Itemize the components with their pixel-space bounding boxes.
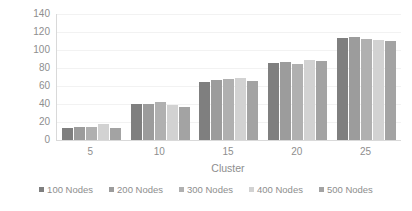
legend-label: 500 Nodes [327,184,373,195]
x-axis-tick-label: 10 [125,145,194,159]
cluster-group [263,14,332,140]
bar[interactable] [211,80,222,140]
bar[interactable] [292,64,303,140]
bar[interactable] [337,38,348,140]
bar[interactable] [143,104,154,140]
legend-label: 200 Nodes [117,184,163,195]
y-axis-tick-label: 40 [20,99,50,109]
bar[interactable] [155,102,166,140]
bar[interactable] [167,105,178,140]
y-axis-tick-label: 100 [20,45,50,55]
legend-item[interactable]: 100 Nodes [39,184,93,195]
bar[interactable] [110,128,121,140]
bar[interactable] [98,124,109,140]
y-axis-tick-labels: 020406080100120140 [20,14,50,140]
y-axis-tick-label: 0 [20,135,50,145]
cluster-group [126,14,195,140]
bar[interactable] [385,41,396,140]
legend-swatch-icon [179,187,184,192]
bar[interactable] [268,63,279,140]
bar-chart: Energy Consumption 020406080100120140 51… [0,0,412,211]
bar[interactable] [223,79,234,140]
cluster-group [195,14,264,140]
y-axis-tick-label: 60 [20,81,50,91]
bar[interactable] [349,37,360,141]
cluster-group [332,14,401,140]
y-axis-tick-label: 80 [20,63,50,73]
bar[interactable] [179,107,190,140]
cluster-group [57,14,126,140]
legend-swatch-icon [39,187,44,192]
bar[interactable] [199,82,210,141]
legend-swatch-icon [249,187,254,192]
bar[interactable] [304,60,315,140]
bar[interactable] [280,62,291,140]
y-axis-tick-label: 140 [20,9,50,19]
x-axis-tick-label: 15 [194,145,263,159]
x-axis-title: Cluster [56,161,400,175]
y-axis-tick-label: 120 [20,27,50,37]
bar[interactable] [361,39,372,140]
legend-label: 400 Nodes [257,184,303,195]
legend-label: 100 Nodes [47,184,93,195]
bar[interactable] [247,81,258,140]
bar[interactable] [316,61,327,140]
y-axis-tick-label: 20 [20,117,50,127]
legend-item[interactable]: 400 Nodes [249,184,303,195]
legend-item[interactable]: 300 Nodes [179,184,233,195]
legend-item[interactable]: 500 Nodes [319,184,373,195]
x-axis-tick-label: 20 [262,145,331,159]
plot-area [56,14,401,141]
x-axis-tick-label: 25 [331,145,400,159]
bars-layer [57,14,401,140]
bar[interactable] [131,104,142,140]
bar[interactable] [373,40,384,140]
bar[interactable] [235,78,246,140]
chart-legend: 100 Nodes200 Nodes300 Nodes400 Nodes500 … [0,184,412,195]
legend-item[interactable]: 200 Nodes [109,184,163,195]
legend-swatch-icon [319,187,324,192]
bar[interactable] [62,128,73,140]
x-axis-tick-labels: 510152025 [56,145,400,159]
x-axis-tick-label: 5 [56,145,125,159]
legend-swatch-icon [109,187,114,192]
bar[interactable] [74,127,85,140]
bar[interactable] [86,127,97,141]
legend-label: 300 Nodes [187,184,233,195]
